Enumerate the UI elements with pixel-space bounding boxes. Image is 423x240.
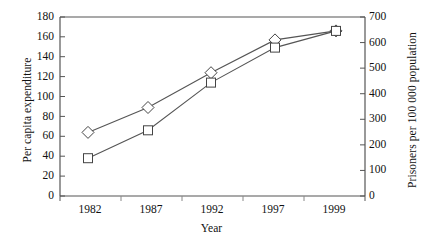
- left-axis-ticks: [60, 17, 65, 196]
- x-tick-label-1982: 1982: [60, 203, 120, 215]
- y2-tick-label-0: 0: [369, 189, 409, 201]
- data-point-marker: [142, 102, 154, 114]
- data-point-marker: [82, 126, 94, 138]
- x-axis-ticks: [60, 196, 365, 201]
- right-axis-ticks: [360, 17, 365, 196]
- y-tick-label-100: 100: [14, 90, 54, 102]
- y-tick-label-20: 20: [14, 169, 54, 181]
- y2-tick-label-600: 600: [369, 36, 409, 48]
- y-tick-label-0: 0: [14, 189, 54, 201]
- y2-tick-label-700: 700: [369, 10, 409, 22]
- x-tick-label-1987: 1987: [121, 203, 181, 215]
- data-point-marker: [84, 154, 93, 163]
- y-tick-label-60: 60: [14, 129, 54, 141]
- data-point-marker: [205, 67, 217, 79]
- y2-tick-label-500: 500: [369, 61, 409, 73]
- y-tick-label-140: 140: [14, 50, 54, 62]
- data-point-marker: [144, 126, 153, 135]
- series-prisoners: [84, 26, 341, 162]
- x-axis-title: Year: [0, 222, 423, 234]
- x-tick-label-1999: 1999: [304, 203, 364, 215]
- y-tick-label-180: 180: [14, 10, 54, 22]
- y-tick-label-40: 40: [14, 149, 54, 161]
- y-tick-label-80: 80: [14, 110, 54, 122]
- x-tick-label-1997: 1997: [243, 203, 303, 215]
- y-axis-title-left: Per capita expenditure: [21, 25, 33, 195]
- y2-tick-label-100: 100: [369, 163, 409, 175]
- data-point-marker: [207, 78, 216, 87]
- y2-tick-label-300: 300: [369, 112, 409, 124]
- data-point-marker: [332, 26, 341, 35]
- y-tick-label-120: 120: [14, 70, 54, 82]
- x-tick-label-1992: 1992: [182, 203, 242, 215]
- y-axis-title-right: Prisoners per 100 000 population: [406, 10, 418, 210]
- chart-figure: 0 20 40 60 80 100 120 140 160 180 0 100 …: [0, 0, 423, 240]
- data-point-marker: [271, 43, 280, 52]
- y-tick-label-160: 160: [14, 30, 54, 42]
- y2-tick-label-200: 200: [369, 138, 409, 150]
- y2-tick-label-400: 400: [369, 87, 409, 99]
- plot-frame: [60, 17, 365, 196]
